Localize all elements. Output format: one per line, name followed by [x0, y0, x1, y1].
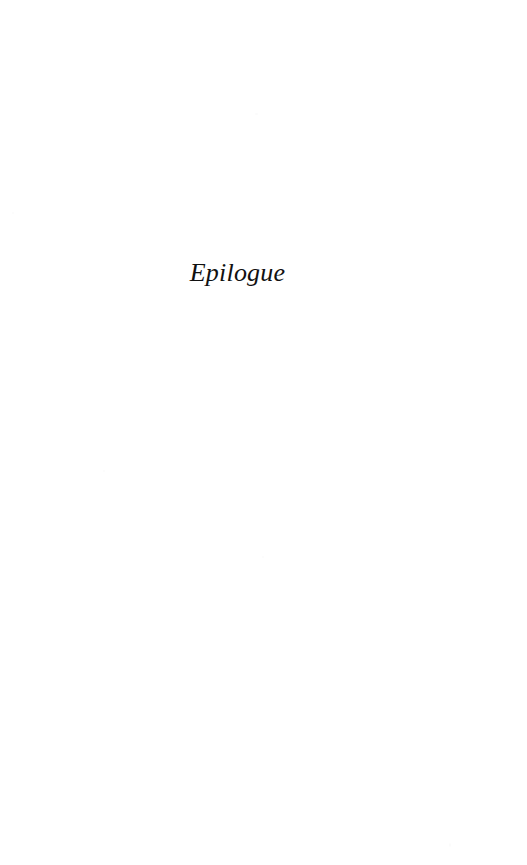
page-title: Epilogue	[0, 255, 475, 291]
scan-speck	[255, 113, 258, 115]
book-page: Epilogue	[0, 0, 527, 865]
scan-speck	[103, 470, 105, 472]
scan-speck	[262, 556, 264, 558]
scan-speck	[12, 212, 14, 214]
scan-speck	[449, 843, 451, 847]
